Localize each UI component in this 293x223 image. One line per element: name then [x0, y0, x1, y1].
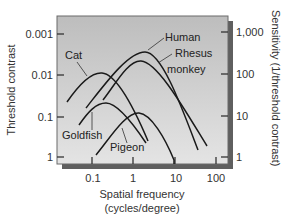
y-right-tick-label: 100 — [236, 68, 254, 80]
label-monkey: monkey — [167, 63, 206, 75]
y-tick-label: 0.01 — [32, 69, 53, 81]
label-cat: Cat — [65, 49, 82, 61]
contrast-sensitivity-chart: 0.001 0.01 0.1 1 1,000 100 10 1 0.1 1 10… — [0, 0, 293, 223]
x-axis-units: (cycles/degree) — [104, 202, 179, 214]
label-pigeon: Pigeon — [110, 141, 144, 153]
label-rhesus: Rhesus — [175, 47, 213, 59]
y-tick-label: 1 — [47, 151, 53, 163]
y-right-tick-label: 10 — [236, 110, 248, 122]
x-tick-label: 1 — [130, 172, 136, 184]
y-tick-label: 0.1 — [38, 111, 53, 123]
y-tick-label: 0.001 — [25, 28, 53, 40]
x-tick-label: 10 — [170, 172, 182, 184]
x-axis-title: Spatial frequency — [100, 188, 185, 200]
x-tick-label: 0.1 — [85, 172, 100, 184]
y-axis-right-title: Sensitivity (1/threshold contrast) — [270, 10, 282, 167]
y-right-tick-label: 1 — [236, 151, 242, 163]
x-tick-label: 100 — [207, 172, 225, 184]
label-human: Human — [165, 31, 200, 43]
y-axis-title: Threshold contrast — [5, 44, 17, 135]
y-right-tick-label: 1,000 — [236, 26, 264, 38]
label-goldfish: Goldfish — [62, 129, 102, 141]
